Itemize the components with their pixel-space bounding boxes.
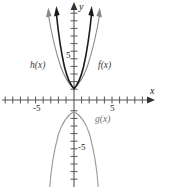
x-tick-label-neg5: -5 (33, 104, 41, 113)
curve-f-right-arrow-icon (88, 6, 94, 17)
curve-label-f: f(x) (98, 61, 111, 71)
curve-h-right-arrow-icon (96, 8, 102, 18)
curve-label-g: g(x) (95, 115, 110, 125)
y-tick-label-neg5: -5 (78, 143, 86, 152)
x-axis-arrow-icon (147, 96, 155, 103)
x-axis-label: x (150, 86, 154, 96)
curve-label-h: h(x) (30, 61, 45, 71)
y-axis-label: y (79, 2, 83, 12)
x-tick-label-pos5: 5 (110, 104, 115, 113)
y-tick-label-pos5: 5 (66, 51, 71, 60)
graph-canvas (0, 0, 169, 187)
y-axis-arrow-icon (71, 2, 78, 10)
curve-f-left-arrow-icon (54, 6, 60, 17)
curve-h-left-arrow-icon (46, 8, 52, 18)
graph-figure: x y -5 5 5 -5 h(x) f(x) g(x) (0, 0, 169, 187)
